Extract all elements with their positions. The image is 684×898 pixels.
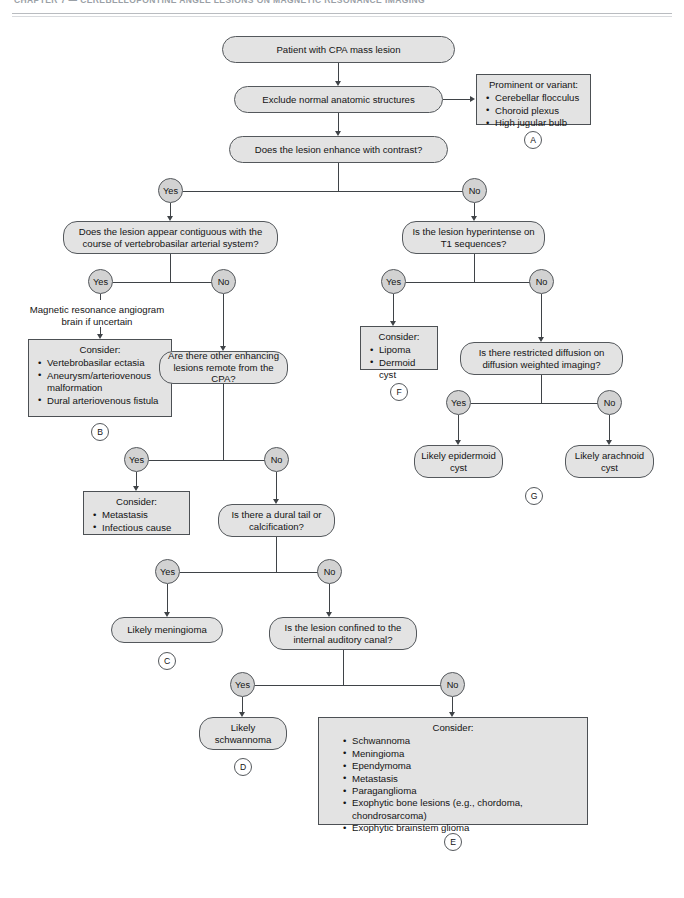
node-likely-schwannoma: Likely schwannoma — [199, 717, 287, 750]
running-head-text: CHAPTER 7 — CEREBELLOPONTINE ANGLE LESIO… — [14, 0, 425, 5]
connector-dural-tail-stem — [276, 537, 277, 572]
branch-contiguous-no: No — [211, 269, 236, 294]
key-label-e: E — [444, 833, 462, 851]
panel-a-item: Cerebellar flocculus — [495, 92, 583, 104]
branch-restricted-diffusion-yes: Yes — [446, 390, 471, 415]
node-other-enhancing-lesions: Are there other enhancing lesions remote… — [159, 351, 288, 384]
panel-f-item: Lipoma — [379, 344, 430, 356]
panel-b-title: Consider: — [36, 344, 164, 356]
panel-c-item: Metastasis — [102, 509, 182, 521]
node-contiguous-vertebrobasilar: Does the lesion appear contiguous with t… — [63, 221, 278, 254]
connector-exclude-to-enhance — [338, 113, 339, 132]
connector-yes-to-schwannoma — [242, 697, 243, 713]
connector-yes-to-meningioma — [167, 584, 168, 613]
connector-contiguous-stem — [170, 254, 171, 282]
branch-restricted-diffusion-no: No — [597, 390, 622, 415]
panel-f-list: Lipoma Dermoid cyst — [368, 344, 430, 381]
key-label-d: D — [234, 758, 252, 776]
key-label-g: G — [525, 487, 543, 505]
panel-b-item: Vertebrobasilar ectasia — [47, 357, 164, 369]
connector-no-to-other-enhancing — [223, 294, 224, 347]
key-label-b: B — [91, 423, 109, 441]
header-rule — [12, 13, 672, 14]
node-hyperintense-t1: Is the lesion hyperintense on T1 sequenc… — [402, 221, 545, 254]
panel-b-item: Aneurysm/arteriovenous malformation — [47, 370, 164, 395]
connector-yes-to-panel-f — [393, 294, 394, 322]
panel-e-item: Meningioma — [352, 748, 580, 760]
connector-no-to-dural-tail — [276, 472, 277, 500]
node-enhance-with-contrast: Does the lesion enhance with contrast? — [229, 136, 448, 163]
branch-hyperintense-yes: Yes — [381, 269, 406, 294]
flowchart-page: CHAPTER 7 — CEREBELLOPONTINE ANGLE LESIO… — [0, 0, 684, 898]
branch-contiguous-yes: Yes — [88, 269, 113, 294]
branch-enhance-no: No — [462, 178, 487, 203]
connector-yes-to-contiguous — [170, 203, 171, 217]
connector-restricted-diffusion-split — [471, 403, 610, 404]
connector-confined-iac-stem — [343, 650, 344, 685]
connector-exclude-to-panel-a — [443, 99, 471, 100]
key-label-f: F — [390, 383, 408, 401]
connector-no-to-arachnoid — [609, 415, 610, 441]
panel-a-item: High jugular bulb — [495, 117, 583, 129]
connector-start-to-exclude — [338, 63, 339, 82]
node-likely-epidermoid-cyst: Likely epidermoid cyst — [414, 445, 503, 478]
panel-e-item: Ependymoma — [352, 760, 580, 772]
panel-c-item: Infectious cause — [102, 522, 182, 534]
branch-other-enhancing-no: No — [264, 447, 289, 472]
panel-a-list: Cerebellar flocculus Choroid plexus High… — [484, 92, 583, 129]
node-exclude-normal: Exclude normal anatomic structures — [234, 86, 443, 113]
panel-a-title: Prominent or variant: — [484, 79, 583, 91]
branch-enhance-yes: Yes — [158, 178, 183, 203]
connector-no-to-panel-e — [452, 697, 453, 713]
connector-restricted-diffusion-stem — [541, 375, 542, 403]
panel-e-item: Paraganglioma — [352, 785, 580, 797]
connector-hyperintense-split — [406, 282, 542, 283]
panel-e: Consider: Schwannoma Meningioma Ependymo… — [318, 717, 588, 825]
key-label-c: C — [158, 652, 176, 670]
connector-other-enhancing-split — [149, 460, 277, 461]
panel-a-item: Choroid plexus — [495, 105, 583, 117]
panel-e-list: Schwannoma Meningioma Ependymoma Metasta… — [326, 735, 580, 834]
panel-c: Consider: Metastasis Infectious cause — [83, 491, 190, 535]
panel-e-title: Consider: — [326, 722, 580, 734]
panel-e-item: Schwannoma — [352, 735, 580, 747]
panel-c-list: Metastasis Infectious cause — [91, 509, 182, 534]
connector-other-enhancing-stem — [223, 384, 224, 460]
connector-contiguous-split — [113, 282, 224, 283]
panel-e-item: Metastasis — [352, 773, 580, 785]
connector-enhance-stem — [338, 163, 339, 191]
connector-yes-to-panel-b — [100, 294, 101, 300]
panel-c-title: Consider: — [91, 496, 182, 508]
connector-no-to-hyperintense — [474, 203, 475, 217]
header-rule-secondary — [12, 16, 672, 17]
key-label-a: A — [524, 131, 542, 149]
panel-a: Prominent or variant: Cerebellar floccul… — [476, 74, 591, 125]
connector-no-to-restricted-diffusion — [541, 294, 542, 338]
connector-hyperintense-stem — [474, 254, 475, 282]
branch-dural-tail-no: No — [317, 559, 342, 584]
connector-no-to-confined-iac — [329, 584, 330, 613]
panel-b-item: Dural arteriovenous fistula — [47, 395, 164, 407]
connector-yes-to-panel-c — [136, 472, 137, 487]
branch-confined-iac-no: No — [440, 672, 465, 697]
connector-confined-iac-split — [255, 685, 453, 686]
panel-e-item: Exophytic brainstem glioma — [352, 822, 580, 834]
connector-enhance-split — [183, 191, 475, 192]
caption-mra: Magnetic resonance angiogram brain if un… — [22, 304, 172, 327]
connector-dural-tail-split — [180, 572, 330, 573]
branch-confined-iac-yes: Yes — [230, 672, 255, 697]
node-start: Patient with CPA mass lesion — [222, 36, 455, 63]
panel-f-item: Dermoid cyst — [379, 357, 430, 382]
panel-b: Consider: Vertebrobasilar ectasia Aneury… — [28, 339, 172, 417]
running-head: CHAPTER 7 — CEREBELLOPONTINE ANGLE LESIO… — [0, 0, 684, 14]
node-confined-iac: Is the lesion confined to the internal a… — [269, 617, 417, 650]
node-dural-tail: Is there a dural tail or calcification? — [218, 504, 335, 537]
branch-hyperintense-no: No — [529, 269, 554, 294]
node-restricted-diffusion: Is there restricted diffusion on diffusi… — [460, 342, 623, 375]
connector-yes-to-epidermoid — [458, 415, 459, 441]
panel-f-title: Consider: — [368, 331, 430, 343]
panel-f: Consider: Lipoma Dermoid cyst — [360, 326, 438, 370]
panel-b-list: Vertebrobasilar ectasia Aneurysm/arterio… — [36, 357, 164, 407]
node-likely-arachnoid-cyst: Likely arachnoid cyst — [565, 445, 654, 478]
panel-e-item: Exophytic bone lesions (e.g., chordoma, … — [352, 797, 580, 822]
